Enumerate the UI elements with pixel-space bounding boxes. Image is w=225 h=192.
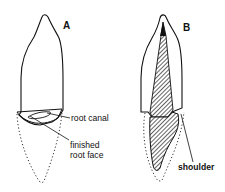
tooth-b-root-core — [150, 112, 179, 170]
tooth-b-post-tip — [160, 22, 166, 36]
label-root-face: root face — [70, 150, 104, 160]
panel-a-letter: A — [63, 20, 70, 31]
leader-shoulder — [181, 114, 193, 162]
panel-b: B shoulder — [141, 15, 215, 181]
panel-b-letter: B — [183, 22, 190, 33]
tooth-a-root-dotted — [17, 112, 62, 183]
label-root-canal: root canal — [71, 113, 109, 123]
tooth-a-crown-outline — [19, 15, 63, 125]
label-shoulder: shoulder — [178, 162, 215, 172]
tooth-diagram: A root canal finished root face B should… — [0, 0, 225, 192]
tooth-a-root-face — [17, 109, 62, 123]
panel-a: A root canal finished root face — [17, 15, 109, 183]
leader-finished-root-face — [30, 116, 69, 140]
label-finished: finished — [70, 140, 100, 150]
